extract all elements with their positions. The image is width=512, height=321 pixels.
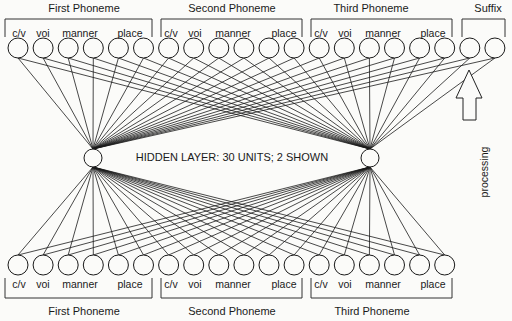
bottom-label-voi: voi [36,279,49,290]
bottom-label-c-v: c/v [314,279,327,290]
output-unit-node [385,255,405,275]
top-label-c-v: c/v [164,28,177,39]
output-unit-node [8,255,28,275]
bottom-label-manner: manner [62,279,98,290]
top-label-manner: manner [215,28,251,39]
hidden-layer-label: HIDDEN LAYER: 30 UNITS; 2 SHOWN [136,152,328,163]
output-unit-node [410,255,430,275]
bottom-label-voi: voi [188,279,201,290]
output-unit-node [334,255,354,275]
hidden-unit-node [361,149,379,167]
output-unit-node [209,255,229,275]
output-unit-node [234,255,254,275]
output-unit-node [359,255,379,275]
top-group-title-third-phoneme: Third Phoneme [333,3,408,14]
bottom-label-c-v: c/v [164,279,177,290]
top-label-voi: voi [36,28,49,39]
output-unit-node [184,255,204,275]
input-unit-node [284,38,304,58]
input-unit-node [485,38,505,58]
input-unit-node [159,38,179,58]
bottom-label-manner: manner [365,279,401,290]
output-unit-node [108,255,128,275]
input-unit-node [209,38,229,58]
input-unit-node [259,38,279,58]
bottom-label-manner: manner [215,279,251,290]
bottom-label-place: place [117,279,142,290]
output-unit-node [58,255,78,275]
bottom-group-title-first-phoneme: First Phoneme [48,306,120,317]
output-unit-node [284,255,304,275]
input-unit-node [385,38,405,58]
input-unit-node [83,38,103,58]
bottom-group-title-third-phoneme: Third Phoneme [334,306,409,317]
input-unit-node [8,38,28,58]
input-unit-node [58,38,78,58]
top-group-title-first-phoneme: First Phoneme [48,3,120,14]
top-label-voi: voi [188,28,201,39]
top-label-place: place [420,28,445,39]
input-unit-node [33,38,53,58]
output-unit-node [83,255,103,275]
top-label-voi: voi [338,28,351,39]
processing-arrow [456,70,482,120]
output-unit-node [134,255,154,275]
input-unit-node [234,38,254,58]
top-label-c-v: c/v [314,28,327,39]
bottom-label-voi: voi [338,279,351,290]
input-unit-node [184,38,204,58]
input-unit-node [460,38,480,58]
top-group-title-second-phoneme: Second Phoneme [188,3,275,14]
hidden-unit-node [84,149,102,167]
input-unit-node [334,38,354,58]
input-unit-node [309,38,329,58]
input-unit-node [359,38,379,58]
input-unit-node [134,38,154,58]
output-unit-node [435,255,455,275]
processing-label: processing [479,147,490,198]
input-unit-node [435,38,455,58]
bottom-label-c-v: c/v [12,279,25,290]
bottom-label-place: place [420,279,445,290]
top-label-place: place [117,28,142,39]
top-label-manner: manner [62,28,98,39]
top-label-place: place [271,28,296,39]
top-group-title-suffix: Suffix [474,3,501,14]
top-label-c-v: c/v [12,28,25,39]
output-unit-node [259,255,279,275]
bottom-group-title-second-phoneme: Second Phoneme [188,306,275,317]
output-unit-node [33,255,53,275]
output-unit-node [159,255,179,275]
output-unit-node [309,255,329,275]
top-label-manner: manner [365,28,401,39]
input-unit-node [410,38,430,58]
input-unit-node [108,38,128,58]
bottom-label-place: place [271,279,296,290]
